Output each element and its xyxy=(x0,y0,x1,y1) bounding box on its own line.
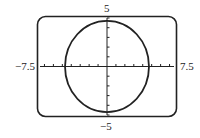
ymin-label: −5 xyxy=(100,121,112,132)
xmax-label: 7.5 xyxy=(180,61,194,72)
xmin-label: −7.5 xyxy=(15,61,35,72)
ymax-label: 5 xyxy=(104,3,110,14)
axes xyxy=(40,18,174,115)
